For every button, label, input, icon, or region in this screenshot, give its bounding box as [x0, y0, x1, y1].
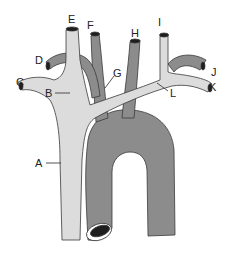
- label-f: F: [87, 20, 94, 31]
- label-i: I: [158, 17, 161, 28]
- aortic-arch: [86, 110, 175, 241]
- label-e: E: [68, 14, 75, 25]
- label-a: A: [35, 158, 42, 169]
- lumen-j: [201, 62, 205, 70]
- label-l: L: [170, 88, 176, 99]
- artery-branch-j: [168, 55, 206, 72]
- label-h: H: [131, 28, 139, 39]
- lumen-h: [130, 39, 140, 43]
- vessel-illustration: [0, 0, 228, 255]
- label-b: B: [45, 88, 52, 99]
- lumen-f: [91, 32, 100, 36]
- label-g: G: [113, 68, 122, 79]
- lumen-d: [46, 62, 50, 70]
- label-d: D: [35, 55, 43, 66]
- label-c: C: [16, 77, 24, 88]
- artery-branch-h: [122, 40, 140, 118]
- label-j: J: [211, 67, 217, 78]
- label-k: K: [209, 82, 216, 93]
- lumen-i: [160, 33, 169, 37]
- lumen-e: [66, 27, 78, 31]
- vessel-diagram: A B C D E F G H I J K L: [0, 0, 228, 255]
